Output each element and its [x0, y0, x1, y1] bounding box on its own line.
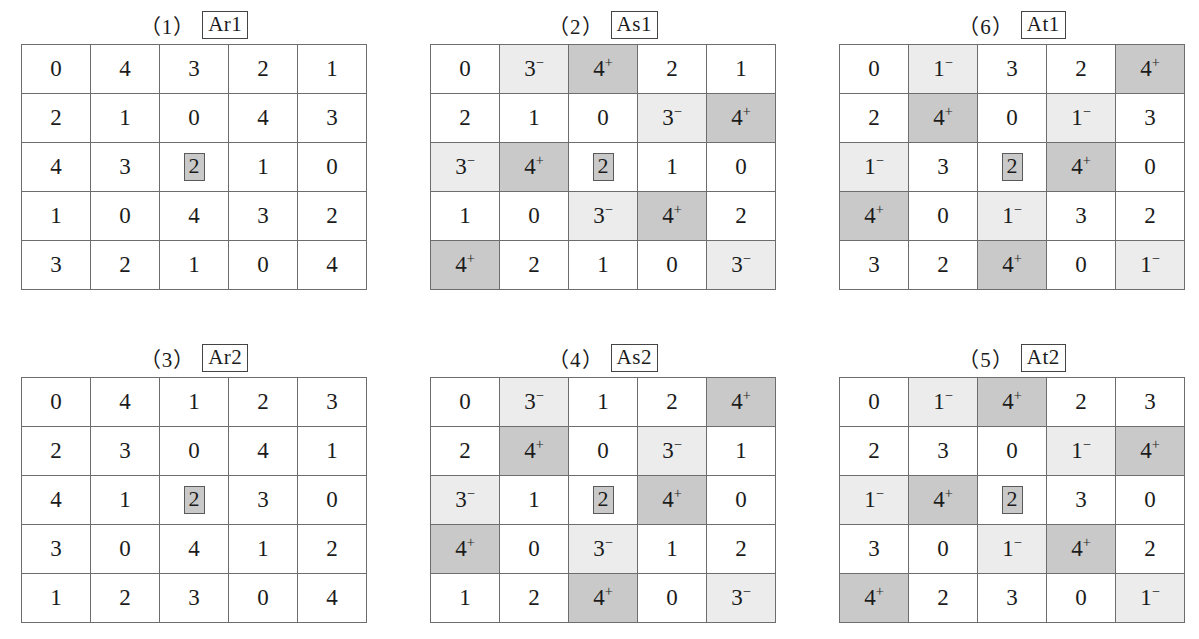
cell-value: 1: [666, 155, 678, 178]
cell-value: 2: [326, 537, 338, 560]
cell-value: 4+: [1071, 155, 1091, 178]
cell-r4c1: 1: [22, 192, 91, 241]
table-row: 3−4+210: [431, 143, 776, 192]
cell-r1c1: 0: [22, 45, 91, 94]
cell-r1c4: 2: [1047, 45, 1116, 94]
cell-value: 3: [1006, 586, 1018, 609]
cell-value: 3: [326, 106, 338, 129]
cell-value: 3: [326, 390, 338, 413]
cell-value: 0: [597, 439, 609, 462]
cell-superscript: +: [743, 387, 751, 403]
cell-r3c4: 1: [229, 143, 298, 192]
cell-value: 3: [188, 586, 200, 609]
panel-ar1: （1）Ar10432121043432101043232104: [21, 8, 367, 290]
cell-value: 0: [735, 155, 747, 178]
cell-r4c2: 0: [909, 525, 978, 574]
cell-r1c5: 4+: [1116, 45, 1185, 94]
panel-name-box: At1: [1021, 11, 1066, 38]
cell-r3c4: 4+: [638, 476, 707, 525]
cell-r1c3: 1: [569, 378, 638, 427]
cell-value: 3−: [731, 586, 751, 609]
cell-value: 2: [459, 106, 471, 129]
cell-value: 2: [868, 106, 880, 129]
cell-value: 3: [868, 537, 880, 560]
cell-value: 1: [459, 204, 471, 227]
cell-value: 1: [119, 106, 131, 129]
cell-r3c2: 1: [91, 476, 160, 525]
cell-value: 2: [528, 586, 540, 609]
cell-value: 4: [326, 586, 338, 609]
cell-r1c4: 2: [1047, 378, 1116, 427]
table-row: 324+01−: [840, 241, 1185, 290]
latin-square-table: 0412323041412303041212304: [21, 377, 367, 623]
cell-r4c3: 1−: [978, 192, 1047, 241]
cell-value: 0: [326, 155, 338, 178]
table-row: 01−4+23: [840, 378, 1185, 427]
cell-value: 1: [257, 155, 269, 178]
cell-value: 3: [188, 57, 200, 80]
cell-r4c1: 3: [840, 525, 909, 574]
table-row: 1−324+0: [840, 143, 1185, 192]
cell-r3c1: 4: [22, 476, 91, 525]
cell-superscript: +: [467, 250, 475, 266]
cell-value: 3−: [731, 253, 751, 276]
cell-r3c5: 0: [1116, 143, 1185, 192]
table-row: 03−124+: [431, 378, 776, 427]
table-row: 12304: [22, 574, 367, 623]
cell-r1c5: 1: [298, 45, 367, 94]
latin-square-table: 03−4+212103−4+3−4+210103−4+24+2103−: [430, 44, 776, 290]
cell-superscript: +: [945, 103, 953, 119]
cell-r2c4: 1−: [1047, 427, 1116, 476]
table-row: 32104: [22, 241, 367, 290]
marked-cell-value: 2: [593, 153, 614, 180]
cell-r5c2: 2: [500, 574, 569, 623]
cell-value: 0: [868, 57, 880, 80]
cell-value: 0: [1075, 253, 1087, 276]
cell-r2c1: 2: [840, 427, 909, 476]
cell-r3c3: 2: [978, 143, 1047, 192]
cell-value: 0: [119, 204, 131, 227]
table-row: 1−4+230: [840, 476, 1185, 525]
cell-value: 1: [528, 106, 540, 129]
table-row: 2103−4+: [431, 94, 776, 143]
cell-r1c2: 3−: [500, 378, 569, 427]
table-row: 24+01−3: [840, 94, 1185, 143]
cell-r5c3: 1: [160, 241, 229, 290]
cell-value: 2: [119, 253, 131, 276]
cell-value: 3: [50, 537, 62, 560]
cell-value: 1−: [864, 155, 884, 178]
panel-index-label: （5）: [958, 343, 1014, 373]
cell-value: 3: [1075, 204, 1087, 227]
cell-r3c3: 2: [569, 143, 638, 192]
cell-r2c2: 4+: [909, 94, 978, 143]
cell-r4c1: 1: [431, 192, 500, 241]
panel-ar2: （3）Ar20412323041412303041212304: [21, 341, 367, 623]
cell-value: 2: [937, 586, 949, 609]
cell-r3c1: 3−: [431, 476, 500, 525]
cell-r3c3: 2: [978, 476, 1047, 525]
cell-r2c5: 3: [1116, 94, 1185, 143]
cell-value: 2: [459, 439, 471, 462]
cell-r3c3: 2: [160, 476, 229, 525]
cell-r4c2: 0: [500, 192, 569, 241]
cell-r1c5: 4+: [707, 378, 776, 427]
cell-value: 4+: [731, 106, 751, 129]
cell-r4c1: 4+: [431, 525, 500, 574]
cell-value: 4+: [593, 586, 613, 609]
cell-value: 0: [937, 537, 949, 560]
cell-value: 0: [50, 390, 62, 413]
marked-cell-value: 2: [184, 486, 205, 513]
cell-r2c2: 4+: [500, 427, 569, 476]
cell-value: 3: [1006, 57, 1018, 80]
cell-r1c5: 3: [298, 378, 367, 427]
panel-as1: （2）As103−4+212103−4+3−4+210103−4+24+2103…: [430, 8, 776, 290]
cell-r1c1: 0: [22, 378, 91, 427]
marked-cell-value: 2: [593, 486, 614, 513]
cell-value: 0: [257, 253, 269, 276]
cell-r2c3: 0: [978, 427, 1047, 476]
cell-r2c1: 2: [431, 94, 500, 143]
cell-superscript: +: [876, 583, 884, 599]
table-row: 4+2301−: [840, 574, 1185, 623]
cell-r2c4: 3−: [638, 94, 707, 143]
cell-value: 3−: [662, 439, 682, 462]
